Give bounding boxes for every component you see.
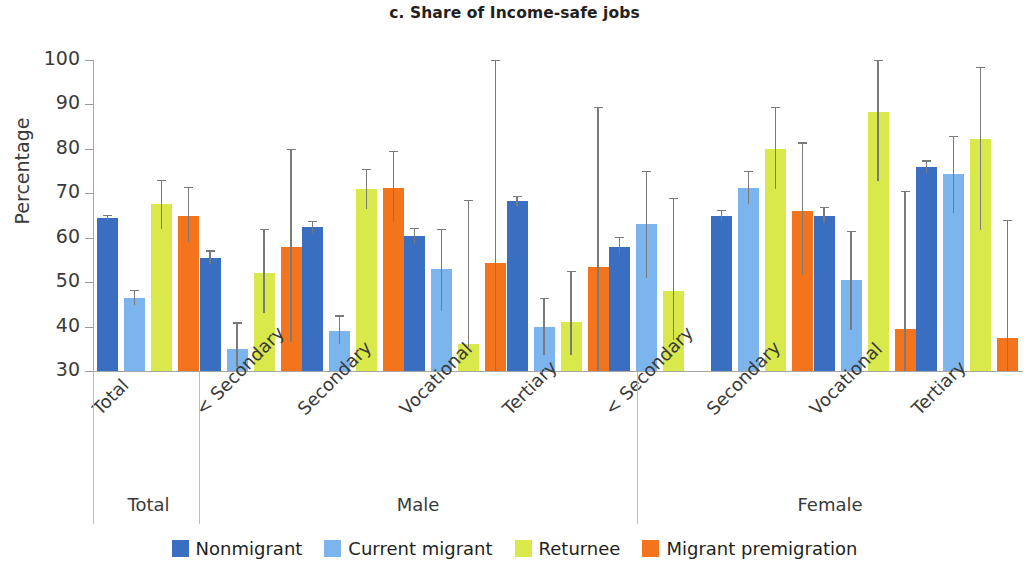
error-bar-cap <box>744 171 753 172</box>
error-bar-cap <box>669 198 678 199</box>
error-bar-cap <box>820 207 829 208</box>
y-tick-mark <box>85 60 93 61</box>
error-bar-cap <box>287 149 296 150</box>
error-bar <box>748 171 749 204</box>
x-tick-label: Total <box>88 374 133 419</box>
error-bar <box>441 229 442 311</box>
group-divider <box>637 372 638 524</box>
error-bar-cap <box>233 322 242 323</box>
error-bar-cap <box>594 107 603 108</box>
bar[interactable] <box>507 201 528 371</box>
error-bar <box>495 60 496 371</box>
error-bar-cap <box>1003 220 1012 221</box>
bar[interactable] <box>814 216 835 372</box>
chart-legend: NonmigrantCurrent migrantReturneeMigrant… <box>0 538 1029 559</box>
bar[interactable] <box>151 204 172 371</box>
group-label: Male <box>200 494 636 515</box>
legend-swatch-icon <box>515 540 532 557</box>
legend-swatch-icon <box>324 540 341 557</box>
error-bar <box>646 171 647 278</box>
error-bar <box>570 271 571 355</box>
legend-item[interactable]: Current migrant <box>324 538 492 559</box>
error-bar-cap <box>771 107 780 108</box>
error-bar-cap <box>308 221 317 222</box>
error-bar-cap <box>437 229 446 230</box>
legend-item[interactable]: Nonmigrant <box>172 538 303 559</box>
y-tick-mark <box>85 238 93 239</box>
error-bar <box>802 142 803 275</box>
error-bar-cap <box>513 196 522 197</box>
error-bar <box>673 198 674 340</box>
error-bar-cap <box>540 298 549 299</box>
legend-swatch-icon <box>172 540 189 557</box>
legend-label: Nonmigrant <box>196 538 303 559</box>
y-tick-label: 90 <box>34 93 80 112</box>
bar[interactable] <box>97 218 118 371</box>
group-divider <box>199 372 200 524</box>
legend-label: Migrant premigration <box>666 538 857 559</box>
bar[interactable] <box>200 258 221 371</box>
legend-swatch-icon <box>642 540 659 557</box>
y-tick-mark <box>85 282 93 283</box>
bar[interactable] <box>609 247 630 371</box>
bar[interactable] <box>404 236 425 371</box>
legend-label: Current migrant <box>348 538 492 559</box>
plot-area <box>93 60 1023 371</box>
legend-label: Returnee <box>539 538 621 559</box>
error-bar-cap <box>976 67 985 68</box>
bar[interactable] <box>711 216 732 372</box>
legend-item[interactable]: Returnee <box>515 538 621 559</box>
y-tick-label: 50 <box>34 271 80 290</box>
bar[interactable] <box>738 188 759 371</box>
error-bar-cap <box>798 142 807 143</box>
error-bar-cap <box>491 60 500 61</box>
y-tick-mark <box>85 327 93 328</box>
y-tick-mark <box>85 104 93 105</box>
y-tick-mark <box>85 149 93 150</box>
group-divider <box>93 372 94 524</box>
error-bar-cap <box>922 160 931 161</box>
chart-container: c. Share of Income-safe jobs Percentage … <box>0 0 1029 564</box>
y-tick-mark <box>85 371 93 372</box>
error-bar <box>516 196 517 206</box>
error-bar <box>134 290 135 306</box>
y-tick-label: 30 <box>34 360 80 379</box>
error-bar-cap <box>157 180 166 181</box>
error-bar <box>904 191 905 371</box>
error-bar <box>721 210 722 222</box>
error-bar-cap <box>184 187 193 188</box>
error-bar-cap <box>389 151 398 152</box>
error-bar <box>980 67 981 230</box>
error-bar <box>393 151 394 222</box>
error-bar-cap <box>874 60 883 61</box>
legend-item[interactable]: Migrant premigration <box>642 538 857 559</box>
error-bar <box>926 160 927 172</box>
error-bar-cap <box>717 210 726 211</box>
error-bar <box>263 229 264 313</box>
y-tick-label: 80 <box>34 138 80 157</box>
error-bar <box>312 221 313 233</box>
error-bar-cap <box>615 237 624 238</box>
error-bar-cap <box>949 136 958 137</box>
y-tick-label: 100 <box>34 49 80 68</box>
y-tick-mark <box>85 193 93 194</box>
bar[interactable] <box>124 298 145 371</box>
error-bar <box>366 169 367 209</box>
error-bar <box>188 187 189 243</box>
error-bar-cap <box>901 191 910 192</box>
error-bar-cap <box>362 169 371 170</box>
error-bar <box>953 136 954 214</box>
error-bar-cap <box>410 228 419 229</box>
error-bar-cap <box>642 171 651 172</box>
error-bar <box>339 315 340 344</box>
error-bar <box>543 298 544 356</box>
error-bar-cap <box>206 250 215 251</box>
error-bar <box>850 231 851 330</box>
y-tick-label: 70 <box>34 182 80 201</box>
chart-title: c. Share of Income-safe jobs <box>0 4 1029 22</box>
bar[interactable] <box>916 167 937 371</box>
error-bar <box>414 228 415 244</box>
y-tick-label: 40 <box>34 316 80 335</box>
error-bar <box>209 250 210 264</box>
bar[interactable] <box>302 227 323 371</box>
